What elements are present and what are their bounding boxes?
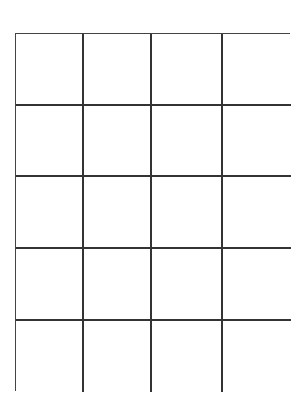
- grid-cell: [152, 34, 223, 106]
- grid-cell: [223, 34, 291, 106]
- grid-cell: [16, 106, 84, 177]
- grid-cell: [84, 34, 152, 106]
- grid-cell: [84, 249, 152, 321]
- grid-cell: [16, 34, 84, 106]
- grid-cell: [84, 106, 152, 177]
- grid-cell: [223, 249, 291, 321]
- empty-grid: [15, 33, 290, 391]
- grid-cell: [152, 106, 223, 177]
- grid-cell: [223, 321, 291, 392]
- grid-cell: [152, 177, 223, 249]
- grid-cell: [223, 177, 291, 249]
- grid-cell: [152, 321, 223, 392]
- grid-cell: [84, 177, 152, 249]
- grid-cell: [16, 249, 84, 321]
- grid-cell: [152, 249, 223, 321]
- grid-cell: [16, 177, 84, 249]
- grid-cell: [223, 106, 291, 177]
- grid-cell: [84, 321, 152, 392]
- grid-cell: [16, 321, 84, 392]
